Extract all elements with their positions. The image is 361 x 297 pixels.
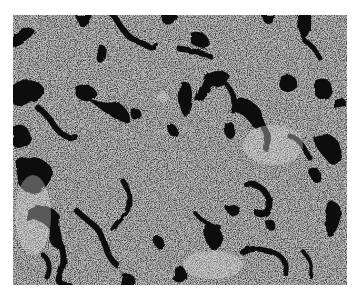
micrograph-image [13, 15, 347, 285]
micrograph-svg [13, 15, 347, 285]
